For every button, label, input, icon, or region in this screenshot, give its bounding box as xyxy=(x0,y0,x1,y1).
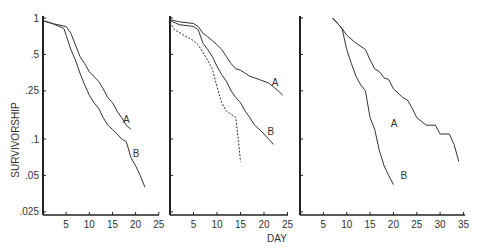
y-tick-label: 1 xyxy=(33,13,39,24)
x-tick-label: 25 xyxy=(411,219,423,230)
x-axis-title: DAY xyxy=(267,233,287,244)
x-tick-label: 20 xyxy=(258,219,270,230)
series-line-dashed xyxy=(170,22,241,161)
series-label-A: A xyxy=(123,114,130,125)
series-line-B xyxy=(333,18,394,185)
series-line-A xyxy=(333,18,459,162)
x-tick-label: 30 xyxy=(435,219,447,230)
x-tick-label: 20 xyxy=(388,219,400,230)
x-tick-label: 25 xyxy=(282,219,294,230)
y-tick-label: .25 xyxy=(25,85,39,96)
x-tick-label: 15 xyxy=(364,219,376,230)
y-tick-label: .1 xyxy=(31,134,40,145)
survivorship-chart: 1.5.25.1.05.025510152025AB510152025AB510… xyxy=(0,0,484,249)
x-tick-label: 35 xyxy=(458,219,470,230)
series-line-B xyxy=(43,21,145,188)
x-tick-label: 20 xyxy=(130,219,142,230)
series-label-B: B xyxy=(133,148,140,159)
x-tick-label: 15 xyxy=(235,219,247,230)
y-tick-label: .025 xyxy=(20,206,40,217)
series-line-A xyxy=(170,20,283,96)
x-tick-label: 15 xyxy=(107,219,119,230)
x-tick-label: 5 xyxy=(321,219,327,230)
series-label-A: A xyxy=(391,118,398,129)
series-label-B: B xyxy=(267,126,274,137)
y-tick-label: .5 xyxy=(31,49,40,60)
x-tick-label: 5 xyxy=(63,219,69,230)
x-tick-label: 5 xyxy=(191,219,197,230)
x-tick-label: 10 xyxy=(341,219,353,230)
x-tick-label: 10 xyxy=(84,219,96,230)
x-tick-label: 10 xyxy=(211,219,223,230)
series-label-A: A xyxy=(272,77,279,88)
series-line-B xyxy=(170,21,273,145)
y-axis-title: SURVIVORSHIP xyxy=(10,102,21,178)
series-line-A xyxy=(43,21,131,130)
series-label-B: B xyxy=(400,170,407,181)
x-tick-label: 25 xyxy=(153,219,165,230)
y-tick-label: .05 xyxy=(25,170,39,181)
